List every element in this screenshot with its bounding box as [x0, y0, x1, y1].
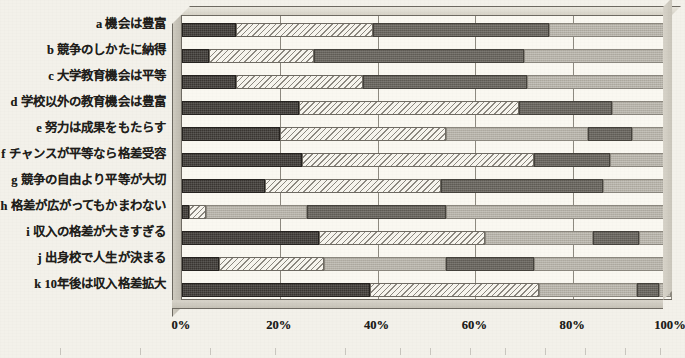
bleed-mark: [585, 348, 586, 355]
bleed-mark: [275, 348, 276, 355]
category-label-i: i 収入の格差が大きすぎる: [26, 219, 166, 245]
bar-segment: [182, 23, 236, 37]
bar-segment: [446, 205, 671, 219]
bleed-mark: [660, 348, 661, 355]
bar-segment: [182, 257, 219, 271]
bleed-mark: [430, 348, 431, 355]
scan-bleed-artifacts: [0, 344, 685, 358]
bar-segment: [182, 179, 265, 193]
bar-segment: [370, 283, 539, 297]
bar-segment: [302, 153, 534, 167]
bar-segment: [637, 283, 659, 297]
bleed-mark: [345, 348, 346, 355]
bar-segment: [182, 205, 189, 219]
bar-segment: [527, 75, 671, 89]
bar-segment: [593, 231, 639, 245]
bar-segment: [182, 153, 302, 167]
bar-segment: [307, 205, 446, 219]
bar-segment: [610, 153, 671, 167]
bar-segment: [363, 75, 527, 89]
bar-segment: [280, 127, 446, 141]
category-label-f: f チャンスが平等なら格差受容: [1, 141, 166, 167]
bar-segment: [446, 127, 588, 141]
x-axis-tick-labels: 0%20%40%60%80%100%: [172, 318, 672, 340]
bar-segment: [324, 257, 446, 271]
bar-segment: [549, 23, 671, 37]
bar-segment: [182, 231, 319, 245]
bar-row: [182, 257, 671, 271]
frame-top-face: [181, 6, 681, 15]
bar-row: [182, 283, 671, 297]
bar-row: [182, 23, 671, 37]
frame-left-face: [172, 15, 181, 317]
bar-segment: [209, 49, 314, 63]
bar-segment: [446, 257, 534, 271]
bleed-mark: [545, 348, 546, 355]
frame-bottom-face: [172, 300, 663, 309]
bar-segment: [539, 283, 637, 297]
bar-series-container: [182, 16, 671, 299]
bleed-mark: [625, 348, 626, 355]
bar-segment: [588, 127, 632, 141]
bleed-mark: [60, 348, 61, 355]
chart-page: a 機会は豊富b 競争のしかたに納得c 大学教育機会は平等d 学校以外の教育機会…: [0, 0, 685, 358]
category-label-d: d 学校以外の教育機会は豊富: [11, 89, 166, 115]
x-tick-label-40: 40%: [364, 318, 389, 333]
category-label-k: k 10年後は収入格差拡大: [34, 271, 166, 297]
bar-segment: [524, 49, 671, 63]
bleed-mark: [140, 348, 141, 355]
bar-segment: [314, 49, 524, 63]
bar-row: [182, 231, 671, 245]
bar-segment: [265, 179, 441, 193]
bar-row: [182, 205, 671, 219]
bar-segment: [236, 75, 363, 89]
bar-segment: [373, 23, 549, 37]
category-labels: a 機会は豊富b 競争のしかたに納得c 大学教育機会は平等d 学校以外の教育機会…: [0, 11, 172, 301]
bar-segment: [182, 283, 370, 297]
bleed-mark: [470, 348, 471, 355]
bar-segment: [534, 257, 671, 271]
bar-segment: [182, 101, 299, 115]
bar-row: [182, 179, 671, 193]
bar-row: [182, 153, 671, 167]
bar-segment: [182, 75, 236, 89]
x-tick-label-20: 20%: [266, 318, 291, 333]
category-label-b: b 競争のしかたに納得: [47, 37, 166, 63]
bleed-mark: [400, 348, 401, 355]
bar-segment: [219, 257, 324, 271]
bar-segment: [534, 153, 610, 167]
bar-row: [182, 49, 671, 63]
x-tick-label-0: 0%: [172, 318, 191, 333]
bar-segment: [319, 231, 485, 245]
bleed-mark: [505, 348, 506, 355]
category-label-a: a 機会は豊富: [96, 11, 166, 37]
bar-segment: [485, 231, 593, 245]
bar-segment: [236, 23, 373, 37]
bar-segment: [189, 205, 206, 219]
category-label-j: j 出身校で人生が決まる: [38, 245, 166, 271]
bar-segment: [206, 205, 306, 219]
bar-segment: [182, 127, 280, 141]
bar-segment: [182, 49, 209, 63]
bar-row: [182, 127, 671, 141]
bar-segment: [299, 101, 519, 115]
category-label-c: c 大学教育機会は平等: [48, 63, 166, 89]
bar-segment: [441, 179, 602, 193]
plot-area: [181, 15, 672, 300]
bleed-mark: [210, 348, 211, 355]
x-tick-label-80: 80%: [560, 318, 585, 333]
bar-segment: [519, 101, 612, 115]
bar-segment: [603, 179, 671, 193]
bar-row: [182, 75, 671, 89]
category-label-h: h 格差が広がってもかまわない: [1, 193, 167, 219]
x-tick-label-60: 60%: [462, 318, 487, 333]
category-label-e: e 努力は成果をもたらす: [36, 115, 166, 141]
category-label-g: g 競争の自由より平等が大切: [11, 167, 166, 193]
x-tick-label-100: 100%: [654, 318, 685, 333]
plot-frame: [172, 6, 672, 317]
bar-row: [182, 101, 671, 115]
